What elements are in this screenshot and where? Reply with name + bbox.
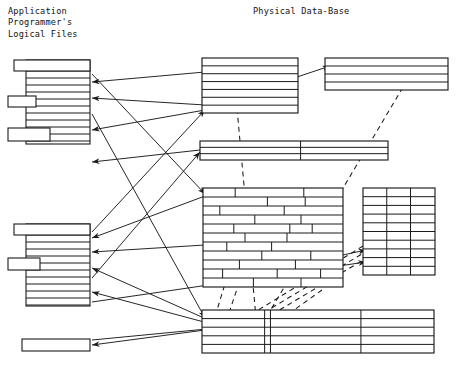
physical-table-top-right[interactable] <box>325 58 448 90</box>
physical-table-top-left[interactable] <box>202 58 298 113</box>
physical-table-brick[interactable] <box>203 188 343 287</box>
logical-file-block-2-tab-1 <box>8 258 40 270</box>
mapping-arrow-3[interactable] <box>92 110 205 130</box>
mapping-arrow-12[interactable] <box>92 110 205 232</box>
logical-file-block-1-header-bar <box>14 60 90 71</box>
physical-table-bottom-outline <box>202 310 434 353</box>
mapping-arrow-11[interactable] <box>92 114 205 318</box>
physical-tables-layer <box>200 58 448 353</box>
logical-file-block-1-tab-2 <box>8 128 50 141</box>
physical-table-bottom[interactable] <box>202 310 434 353</box>
logical-file-block-3-bar <box>22 339 90 351</box>
physical-table-middle-bar[interactable] <box>200 141 388 160</box>
mapping-arrow-4[interactable] <box>92 150 200 162</box>
mapping-arrow-8[interactable] <box>92 292 204 322</box>
logical-file-block-3[interactable] <box>22 339 90 351</box>
physical-table-brick-outline <box>203 188 343 287</box>
physical-table-grid[interactable] <box>363 188 435 275</box>
mapping-arrow-6[interactable] <box>92 245 205 252</box>
logical-file-block-1-tab-1 <box>8 96 36 107</box>
diagram-root: Application Programmer's Logical Files P… <box>0 0 473 375</box>
logical-file-block-1[interactable] <box>8 60 90 144</box>
diagram-canvas <box>0 0 473 375</box>
mapping-arrow-9[interactable] <box>92 330 205 345</box>
mapping-arrow-5[interactable] <box>92 196 205 238</box>
physical-table-middle-bar-outline <box>200 141 388 160</box>
logical-files-layer <box>8 60 90 351</box>
mapping-arrow-2[interactable] <box>92 98 205 105</box>
mapping-arrow-1[interactable] <box>92 72 205 82</box>
logical-file-block-2-header-bar <box>14 224 90 235</box>
logical-file-block-2[interactable] <box>8 224 90 306</box>
mapping-arrow-7[interactable] <box>92 268 204 318</box>
mapping-arrow-10[interactable] <box>92 74 205 194</box>
